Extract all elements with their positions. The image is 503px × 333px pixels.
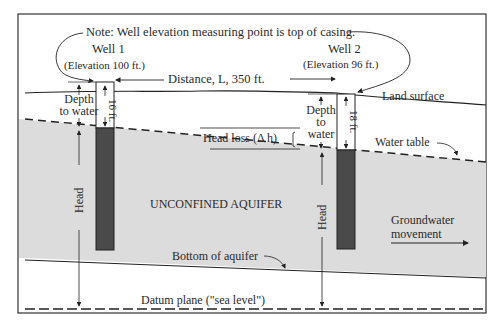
well2-head-label: Head: [315, 205, 329, 230]
well1-depth-label-2: to water: [60, 104, 99, 118]
water-table-label: Water table: [375, 135, 430, 149]
well2-depth-label-3: water: [308, 127, 335, 141]
well1-elevation: (Elevation 100 ft.): [64, 59, 145, 72]
head-loss-label: Head loss (Δ h): [203, 131, 277, 145]
land-surface-label: Land surface: [382, 89, 444, 103]
datum-plane-label: Datum plane ("sea level"): [141, 293, 265, 307]
note-text: Note: Well elevation measuring point is …: [86, 25, 355, 39]
well2-title: Well 2: [328, 42, 361, 56]
groundwater-label-2: movement: [391, 227, 442, 241]
aquifer-diagram: Note: Well elevation measuring point is …: [0, 0, 503, 333]
aquifer-label: UNCONFINED AQUIFER: [150, 197, 282, 211]
well1-water-column: [96, 128, 114, 250]
well1-title: Well 1: [92, 42, 125, 56]
groundwater-label-1: Groundwater: [391, 213, 454, 227]
aquifer-bottom-label: Bottom of aquifer: [172, 249, 258, 263]
well2-elevation: (Elevation 96 ft.): [303, 58, 379, 71]
well1-depth-value: 16 ft.: [107, 99, 119, 122]
well2-water-column: [337, 150, 355, 249]
distance-label: Distance, L, 350 ft.: [168, 72, 265, 86]
well1-head-label: Head: [72, 188, 86, 213]
well2-depth-value: 18 ft.: [348, 110, 360, 133]
